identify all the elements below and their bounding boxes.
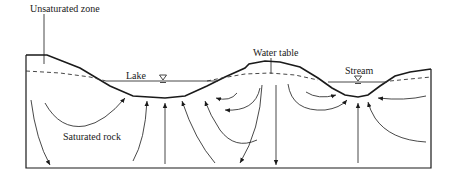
flow-arrow	[205, 101, 257, 143]
water-table-label: Water table	[253, 47, 299, 58]
flow-arrow	[31, 100, 50, 165]
lake-label: Lake	[126, 70, 147, 81]
water-table-line-right	[390, 77, 431, 81]
flow-arrow	[240, 85, 262, 163]
saturated-rock-label: Saturated rock	[63, 131, 121, 142]
flow-arrow	[288, 84, 347, 110]
flow-arrow	[45, 98, 125, 127]
flow-arrow	[133, 101, 147, 161]
flow-arrow	[216, 93, 237, 99]
flow-arrow	[306, 92, 336, 97]
flow-arrow	[378, 96, 426, 99]
stream-label: Stream	[345, 65, 374, 76]
unsaturated-zone-label: Unsaturated zone	[30, 3, 100, 14]
flow-arrow	[182, 101, 215, 163]
flow-arrow	[368, 102, 426, 142]
flow-arrow	[225, 88, 260, 110]
groundwater-diagram: Unsaturated zone Lake Water table Stream…	[0, 0, 454, 178]
